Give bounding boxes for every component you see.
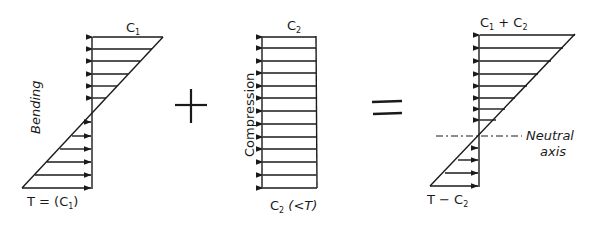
- neutral-axis-label-line2: axis: [540, 144, 566, 159]
- combined-envelope-line: [430, 34, 575, 186]
- bending-compression-arrows: [93, 37, 163, 98]
- bending-side-label: Bending: [28, 80, 43, 134]
- combined-top-label: C1 + C2: [480, 15, 528, 32]
- combined-compression-arrows: [480, 35, 575, 120]
- compression-side-label: Compression: [242, 73, 257, 157]
- neutral-axis-label: Neutral: [526, 128, 574, 143]
- bending-top-label: C1: [126, 20, 140, 37]
- compression-envelope-line: [316, 36, 317, 188]
- combined-panel: [430, 34, 575, 187]
- compression-panel: [262, 36, 317, 189]
- plus-operator-icon: [175, 89, 207, 123]
- combined-tension-arrows: [430, 148, 478, 186]
- bending-bottom-label: T = (C1): [26, 194, 78, 211]
- bending-panel: [22, 37, 163, 189]
- compression-bottom-label: C2 (<T): [270, 198, 317, 215]
- combined-bottom-label: T − C2: [426, 192, 468, 209]
- compression-top-label: C2: [287, 18, 301, 35]
- equals-operator-icon: [372, 101, 402, 114]
- stress-superposition-diagram: Bending C1 T = (C1) Compression: [0, 0, 603, 226]
- compression-arrows: [263, 37, 317, 188]
